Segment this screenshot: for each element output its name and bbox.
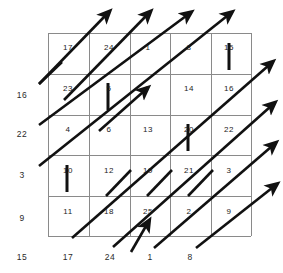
cell-number: 17 bbox=[63, 43, 73, 52]
cell-number: 12 bbox=[104, 166, 114, 175]
board-graphics bbox=[0, 0, 283, 273]
bottom-axis-label: 1 bbox=[147, 252, 152, 262]
cell-number: 15 bbox=[224, 43, 234, 52]
cell-number: 20 bbox=[184, 125, 194, 134]
cell-number: 6 bbox=[107, 125, 112, 134]
cell-number: 16 bbox=[224, 84, 234, 93]
cell-number: 25 bbox=[143, 207, 153, 216]
left-axis-label: 3 bbox=[19, 170, 24, 180]
diagonal-arrows bbox=[39, 16, 272, 252]
arrow-8 bbox=[196, 188, 272, 248]
cell-number: 11 bbox=[63, 207, 72, 216]
bottom-axis-label: 17 bbox=[63, 252, 73, 262]
arrow-2 bbox=[64, 16, 146, 100]
left-axis-label: 22 bbox=[17, 129, 27, 139]
cell-number: 1 bbox=[146, 43, 151, 52]
cell-number: 8 bbox=[187, 43, 192, 52]
cell-number: 4 bbox=[66, 125, 71, 134]
left-axis-label: 9 bbox=[19, 213, 24, 223]
lattice-figure: 17 24 1 8 15 23 5 7 14 16 4 6 13 20 22 1… bbox=[0, 0, 283, 273]
left-axis-label: 16 bbox=[17, 90, 27, 100]
bottom-axis-label: 8 bbox=[187, 252, 192, 262]
cell-number: 13 bbox=[143, 125, 153, 134]
cell-number: 5 bbox=[107, 84, 112, 93]
cell-number: 14 bbox=[184, 84, 194, 93]
cell-number: 3 bbox=[227, 166, 232, 175]
cell-number: 19 bbox=[143, 166, 153, 175]
bottom-axis-label: 24 bbox=[105, 252, 115, 262]
cell-number: 9 bbox=[227, 207, 232, 216]
bottom-axis-label: 15 bbox=[17, 252, 27, 262]
cell-number: 21 bbox=[184, 166, 194, 175]
cell-number: 2 bbox=[187, 207, 192, 216]
cell-number: 10 bbox=[63, 166, 73, 175]
cell-number: 23 bbox=[63, 84, 73, 93]
cell-number: 24 bbox=[104, 43, 114, 52]
cell-number: 7 bbox=[146, 84, 151, 93]
arrow-7 bbox=[154, 147, 271, 248]
cell-number: 18 bbox=[104, 207, 114, 216]
cell-number: 22 bbox=[224, 125, 234, 134]
